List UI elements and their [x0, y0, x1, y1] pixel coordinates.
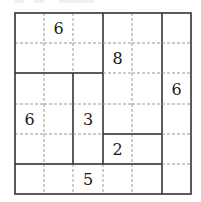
grid-cell[interactable]	[15, 13, 44, 43]
given-digit: 2	[112, 140, 122, 159]
grid-cell[interactable]	[132, 134, 162, 164]
grid-cell[interactable]	[73, 73, 103, 104]
given-digit: 6	[53, 19, 63, 38]
given-digit: 8	[112, 49, 122, 68]
grid-cell[interactable]	[103, 73, 132, 104]
grid-cell[interactable]	[132, 43, 162, 73]
grid-cell[interactable]	[15, 73, 44, 104]
grid-cell[interactable]	[103, 104, 132, 134]
grid-cell[interactable]	[162, 13, 191, 43]
grid-cell[interactable]	[162, 134, 191, 164]
grid-cell[interactable]	[103, 164, 132, 194]
grid-cell[interactable]	[15, 164, 44, 194]
grid-cell[interactable]	[44, 104, 73, 134]
grid-cell[interactable]	[15, 134, 44, 164]
grid-cell[interactable]	[73, 43, 103, 73]
grid-cell[interactable]	[162, 164, 191, 194]
given-digit: 3	[83, 110, 93, 129]
grid-cell[interactable]	[103, 13, 132, 43]
grid-cell[interactable]	[132, 13, 162, 43]
grid-cell[interactable]	[132, 164, 162, 194]
grid-cell[interactable]	[162, 43, 191, 73]
given-digit: 6	[171, 80, 181, 99]
grid-cell[interactable]	[73, 134, 103, 164]
grid-cell[interactable]	[73, 13, 103, 43]
grid-cell[interactable]	[44, 73, 73, 104]
grid-cell[interactable]	[132, 73, 162, 104]
given-digit: 6	[24, 110, 34, 129]
grid-cell[interactable]	[44, 164, 73, 194]
given-digit: 5	[83, 170, 93, 189]
grid-cell[interactable]	[162, 104, 191, 134]
grid-cell[interactable]	[132, 104, 162, 134]
grid-cell[interactable]	[44, 43, 73, 73]
puzzle-grid: 6866325	[0, 0, 201, 202]
grid-cell[interactable]	[44, 134, 73, 164]
grid-cell[interactable]	[15, 43, 44, 73]
